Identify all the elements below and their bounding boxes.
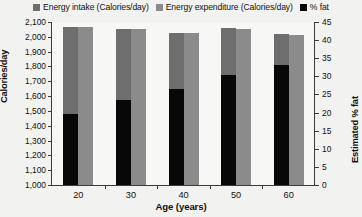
bar-percent-fat — [169, 89, 184, 185]
right-axis-tick-label: 40 — [322, 36, 331, 44]
y-axis-tick-label: 1,800 — [25, 62, 46, 70]
right-axis-tick-label: 20 — [322, 108, 331, 116]
right-axis-tick — [315, 40, 319, 41]
right-axis-tick-label: 30 — [322, 72, 331, 80]
bar-group — [221, 22, 251, 185]
right-axis-tick — [315, 185, 319, 186]
x-axis-tick-label: 30 — [126, 191, 136, 200]
y-axis-tick-label: 1,300 — [25, 136, 46, 144]
bar-percent-fat — [116, 100, 131, 185]
right-axis-tick — [315, 94, 319, 95]
y-axis-tick-label: 1,900 — [25, 47, 46, 55]
right-axis-tick — [315, 167, 319, 168]
right-axis-tick-label: 45 — [322, 18, 331, 26]
y-axis-tick-label: 1,200 — [25, 151, 46, 159]
y-axis-tick-label: 1,400 — [25, 122, 46, 130]
right-axis-tick — [315, 113, 319, 114]
y-axis-tick — [48, 52, 52, 53]
bar-percent-fat — [274, 65, 289, 185]
legend-label: % fat — [310, 3, 329, 12]
x-axis-tick-label: 60 — [284, 191, 294, 200]
bar-energy-expenditure — [289, 35, 304, 185]
bar-percent-fat — [221, 75, 236, 185]
y-axis-title: Calories/day — [0, 50, 9, 103]
y-axis-tick — [48, 22, 52, 23]
bar-percent-fat — [63, 114, 78, 185]
right-axis-tick-label: 15 — [322, 126, 331, 134]
legend-item-energy-expenditure: Energy expenditure (Calories/day) — [156, 3, 293, 12]
right-axis-tick — [315, 76, 319, 77]
bar-group — [169, 22, 199, 185]
bar-energy-expenditure — [236, 29, 251, 185]
legend-item-percent-fat: % fat — [300, 3, 329, 12]
y-axis-tick — [48, 141, 52, 142]
right-axis-tick — [315, 149, 319, 150]
y-axis-tick — [48, 170, 52, 171]
right-axis-title: Estimated % fat — [349, 96, 360, 163]
y-axis-tick-label: 1,700 — [25, 77, 46, 85]
x-axis-tick — [262, 185, 263, 189]
y-axis-tick-label: 2,100 — [25, 18, 46, 26]
right-axis-tick — [315, 22, 319, 23]
bar-group — [116, 22, 146, 185]
bar-energy-expenditure — [184, 33, 199, 185]
y-axis-tick — [48, 111, 52, 112]
legend-item-energy-intake: Energy intake (Calories/day) — [33, 3, 149, 12]
square-swatch-icon — [300, 4, 307, 11]
y-axis-tick — [48, 185, 52, 186]
right-axis-tick-label: 10 — [322, 145, 331, 153]
y-axis-tick-label: 1,100 — [25, 166, 46, 174]
x-axis-tick — [157, 185, 158, 189]
y-axis-tick — [48, 126, 52, 127]
x-axis-title: Age (years) — [0, 201, 362, 212]
plot-area: 2,1002,0001,9001,8001,7001,6001,5001,400… — [51, 22, 315, 186]
y-axis-tick — [48, 81, 52, 82]
y-axis-tick — [48, 96, 52, 97]
right-axis-tick-label: 35 — [322, 54, 331, 62]
right-axis-tick — [315, 58, 319, 59]
y-axis-tick — [48, 66, 52, 67]
chart-root: Energy intake (Calories/day) Energy expe… — [0, 0, 362, 217]
right-axis-tick-label: 0 — [322, 181, 327, 189]
x-axis-tick-label: 40 — [178, 191, 188, 200]
bar-energy-expenditure — [78, 27, 93, 185]
right-axis-tick-label: 5 — [322, 163, 327, 171]
bar-group — [63, 22, 93, 185]
x-axis-tick-label: 50 — [231, 191, 241, 200]
legend-label: Energy expenditure (Calories/day) — [166, 3, 293, 12]
square-swatch-icon — [33, 4, 40, 11]
square-swatch-icon — [156, 4, 163, 11]
legend-label: Energy intake (Calories/day) — [43, 3, 149, 12]
x-axis-tick-label: 20 — [73, 191, 83, 200]
y-axis-tick — [48, 37, 52, 38]
y-axis-tick-label: 1,500 — [25, 107, 46, 115]
x-axis-tick — [210, 185, 211, 189]
right-axis-tick — [315, 131, 319, 132]
chart-legend: Energy intake (Calories/day) Energy expe… — [0, 0, 362, 14]
right-axis-tick-label: 25 — [322, 90, 331, 98]
y-axis-tick — [48, 155, 52, 156]
y-axis-tick-label: 2,000 — [25, 33, 46, 41]
y-axis-tick-label: 1,000 — [25, 181, 46, 189]
right-axis-line: 454035302520151050 — [314, 22, 315, 185]
bar-energy-expenditure — [131, 29, 146, 185]
y-axis-tick-label: 1,600 — [25, 92, 46, 100]
bar-group — [274, 22, 304, 185]
x-axis-tick — [105, 185, 106, 189]
